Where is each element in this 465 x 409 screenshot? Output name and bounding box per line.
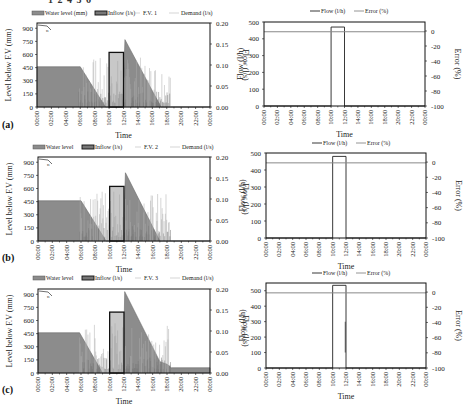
legend-inflow: Inflow (l/s): [95, 144, 122, 151]
chart-a-right: 01002003004005000-20-40-60-80-100Flow (l…: [236, 8, 462, 139]
y-tick-label: 500: [251, 150, 262, 158]
y-tick-label: 450: [23, 64, 34, 72]
fv-marker-label: n: [47, 294, 50, 299]
legend-water-level: Water level: [46, 275, 74, 281]
y2-tick-label: -80: [432, 349, 442, 357]
y2-tick-label: -60: [431, 73, 441, 81]
x-tick-label: 00:00: [34, 245, 41, 260]
x-tick-label: 22:00: [408, 110, 415, 125]
x-tick-label: 18:00: [382, 242, 389, 257]
y-tick-label: 300: [251, 184, 262, 192]
flow-line: [266, 285, 426, 368]
panel-label: (b): [2, 252, 14, 264]
x-tick-label: 08:00: [314, 110, 321, 125]
x-tick-label: 18:00: [163, 377, 170, 392]
fv-marker: [39, 291, 52, 296]
legend-inflow: Inflow (l/s): [95, 275, 122, 282]
inflow-bar: [109, 52, 123, 107]
x-tick-label: 14:00: [134, 245, 141, 260]
legend-swatch-water-level: [33, 276, 45, 280]
chart-a-left: n01503004506007509000.000.050.100.150.20…: [2, 10, 250, 140]
y2-tick-label: 0: [432, 289, 436, 297]
x-tick-label: 18:00: [163, 245, 170, 260]
y2-tick-label: 0.20: [216, 286, 229, 294]
x-tick-label: 18:00: [382, 372, 389, 387]
legend-error: Error (%): [367, 140, 390, 147]
x-axis-title: Time: [338, 392, 355, 401]
y2-tick-label: -40: [431, 58, 441, 66]
x-tick-label: 16:00: [369, 242, 376, 257]
x-tick-label: 06:00: [300, 110, 307, 125]
x-tick-label: 00:00: [262, 242, 269, 257]
x-tick-label: 16:00: [369, 372, 376, 387]
x-tick-label: 04:00: [63, 245, 70, 260]
panel-label: (c): [2, 384, 13, 396]
x-tick-label: 06:00: [302, 242, 309, 257]
y-tick-label: 750: [24, 172, 35, 180]
y-tick-label: 150: [24, 356, 35, 364]
y2-tick-label: 0.05: [216, 349, 229, 357]
x-tick-label: 12:00: [341, 110, 348, 125]
x-tick-label: 22:00: [409, 372, 416, 387]
x-tick-label: 00:00: [206, 377, 213, 392]
y-tick-label: 200: [249, 69, 260, 77]
legend-swatch-water-level: [32, 11, 44, 15]
x-tick-label: 04:00: [62, 111, 69, 126]
x-tick-label: 22:00: [409, 242, 416, 257]
y-tick-label: 300: [249, 52, 260, 60]
y2-tick-label: -100: [432, 235, 445, 243]
legend-flow: Flow (l/h): [323, 270, 347, 277]
chart-c-right: 01002003004005000-20-40-60-80-100Flow (l…: [238, 270, 463, 401]
x-tick-label: 14:00: [355, 372, 362, 387]
x-tick-label: 10:00: [106, 245, 113, 260]
x-tick-label: 22:00: [192, 377, 199, 392]
x-tick-label: 14:00: [134, 111, 141, 126]
y-tick-label: 200: [251, 334, 262, 342]
x-axis-title: Time: [336, 130, 353, 139]
x-tick-label: 18:00: [163, 111, 170, 126]
y2-tick-label: -20: [432, 174, 442, 182]
y-tick-label: 0: [30, 104, 34, 112]
y-tick-label: 0: [256, 103, 260, 111]
legend-inflow: Inflow (l/s): [108, 10, 135, 17]
x-tick-label: 20:00: [394, 110, 401, 125]
chart-c-left: n01503004506007509000.000.050.100.150.20…: [2, 275, 250, 406]
y-tick-label: 400: [251, 167, 262, 175]
x-tick-label: 04:00: [287, 110, 294, 125]
y-tick-label: 400: [251, 303, 262, 311]
x-tick-label: 02:00: [275, 372, 282, 387]
y-tick-label: 200: [251, 201, 262, 209]
x-tick-label: 20:00: [395, 372, 402, 387]
x-tick-label: 14:00: [134, 377, 141, 392]
x-tick-label: 02:00: [275, 242, 282, 257]
y-tick-label: 0: [258, 235, 262, 243]
y2-tick-label: 0: [431, 28, 435, 36]
y-tick-label: 300: [251, 318, 262, 326]
y2-tick-label: -40: [432, 319, 442, 327]
legend-swatch-inflow: [95, 11, 107, 15]
y2-tick-label: 0.10: [216, 328, 229, 336]
y2-tick-label: 0.20: [216, 20, 229, 28]
y2-tick-label: -60: [432, 334, 442, 342]
x-tick-label: 20:00: [177, 245, 184, 260]
chart-b-right: 01002003004005000-20-40-60-80-100Flow (l…: [238, 140, 463, 271]
x-tick-label: 08:00: [315, 372, 322, 387]
y2-tick-label: 0.00: [216, 238, 229, 246]
x-tick-label: 00:00: [422, 372, 429, 387]
x-tick-label: 12:00: [342, 372, 349, 387]
y2-tick-label: 0.10: [216, 196, 229, 204]
y-tick-label: 750: [23, 38, 34, 46]
x-tick-label: 12:00: [120, 111, 127, 126]
y-tick-label: 450: [24, 330, 35, 338]
y2-tick-label: 0.00: [216, 370, 229, 378]
x-tick-label: 08:00: [91, 377, 98, 392]
inflow-bar: [110, 312, 124, 373]
x-tick-label: 12:00: [342, 242, 349, 257]
x-tick-label: 16:00: [149, 245, 156, 260]
x-tick-label: 00:00: [262, 372, 269, 387]
x-tick-label: 02:00: [48, 245, 55, 260]
flow-line: [264, 27, 425, 106]
y-tick-label: 400: [249, 35, 260, 43]
y2-tick-label: 0.05: [216, 83, 229, 91]
y-tick-label: 500: [251, 287, 262, 295]
